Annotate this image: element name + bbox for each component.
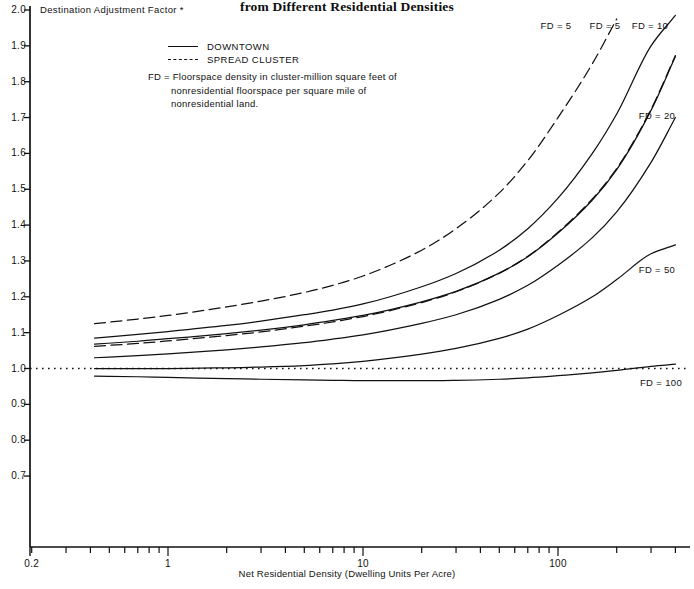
curve-fd5-1 (95, 15, 676, 338)
curve-fd10-2 (95, 57, 676, 345)
curve-label-fd100: FD = 100 (640, 377, 682, 388)
curve-label-fd20: FD = 20 (639, 110, 676, 121)
y-tick-label: 0.9 (0, 398, 26, 409)
y-tick-label: 1.9 (0, 40, 26, 51)
curve-label-fd5: FD = 5 (590, 20, 621, 31)
curve-fd10-3 (95, 56, 676, 347)
curve-fd100-6 (95, 364, 676, 380)
curve-fd50-5 (95, 245, 676, 369)
curve-fd5-0 (95, 19, 617, 324)
y-tick-label: 1.1 (0, 327, 26, 338)
y-tick-label: 1.5 (0, 183, 26, 194)
curve-label-fd10: FD = 10 (632, 20, 669, 31)
y-tick-label: 0.8 (0, 434, 26, 445)
curve-label-fd50: FD = 50 (639, 264, 676, 275)
y-tick-label: 1.6 (0, 147, 26, 158)
curve-fd20-4 (95, 118, 676, 358)
y-tick-label: 1.7 (0, 112, 26, 123)
y-tick-label: 1.8 (0, 76, 26, 87)
chart-figure: from Different Residential Densities Des… (0, 0, 694, 589)
plot-canvas (0, 0, 694, 589)
y-tick-label: 2.0 (0, 4, 26, 15)
y-tick-label: 1.0 (0, 363, 26, 374)
y-tick-label: 1.2 (0, 291, 26, 302)
y-tick-label: 0.7 (0, 470, 26, 481)
y-tick-label: 1.3 (0, 255, 26, 266)
y-tick-label: 1.4 (0, 219, 26, 230)
x-axis-label: Net Residential Density (Dwelling Units … (0, 568, 694, 579)
curve-label-fd5: FD = 5 (541, 20, 572, 31)
